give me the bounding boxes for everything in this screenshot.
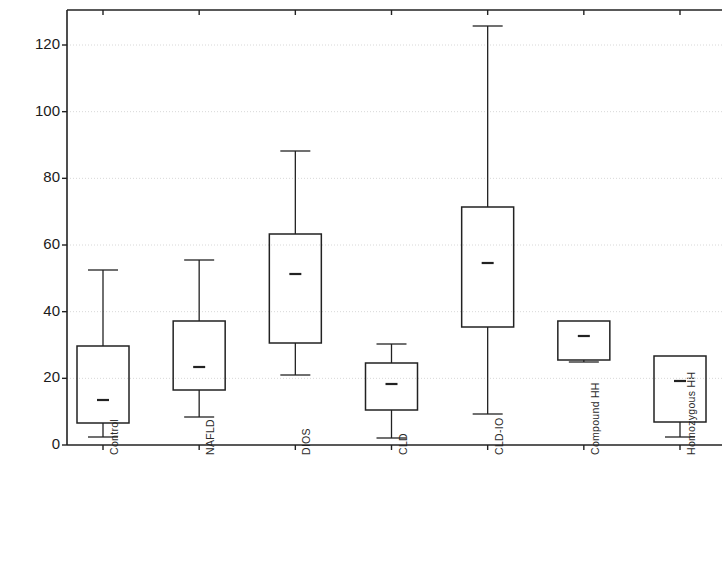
- box-plot-group: [462, 26, 514, 414]
- box-iqr: [558, 321, 610, 360]
- box-iqr: [462, 207, 514, 327]
- box-plot-group: [366, 344, 418, 438]
- boxplot-figure: Hepcidin 020406080100120 ControlNAFLDDIO…: [0, 0, 726, 561]
- box-iqr: [366, 363, 418, 410]
- box-iqr: [654, 356, 706, 422]
- plot-area: [0, 0, 726, 561]
- box-plot-group: [558, 321, 610, 362]
- box-iqr: [269, 234, 321, 343]
- box-plot-group: [173, 260, 225, 417]
- box-plot-group: [77, 270, 129, 437]
- box-iqr: [173, 321, 225, 390]
- box-plot-group: [654, 356, 706, 437]
- box-plot-group: [269, 151, 321, 375]
- box-iqr: [77, 346, 129, 423]
